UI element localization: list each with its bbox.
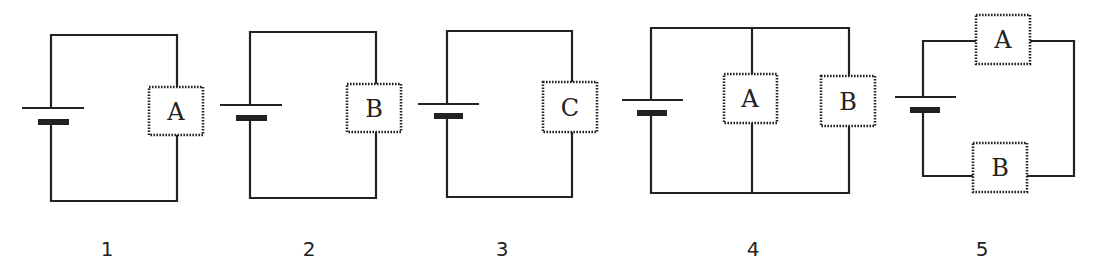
battery-icon bbox=[22, 108, 84, 122]
bulb-icon: B bbox=[973, 143, 1027, 192]
circuit-4: A B 4 bbox=[622, 28, 875, 261]
wire bbox=[923, 110, 973, 176]
bulb-icon: A bbox=[976, 15, 1030, 64]
circuit-number: 1 bbox=[101, 237, 114, 261]
bulb-label: B bbox=[365, 95, 383, 123]
circuit-5: A B 5 bbox=[895, 15, 1074, 261]
bulb-label: A bbox=[993, 26, 1012, 54]
bulb-label: B bbox=[839, 88, 857, 116]
bulb-label: B bbox=[991, 154, 1009, 182]
circuit-3: C 3 bbox=[418, 31, 597, 261]
battery-icon bbox=[220, 105, 282, 118]
circuit-diagram-canvas: A 1 B 2 C 3 bbox=[0, 0, 1093, 276]
bulb-icon: A bbox=[724, 74, 777, 123]
wire bbox=[923, 41, 976, 97]
battery-icon bbox=[895, 97, 956, 110]
bulb-icon: B bbox=[821, 76, 875, 126]
battery-icon bbox=[418, 104, 479, 116]
bulb-icon: B bbox=[347, 84, 401, 132]
circuit-number: 5 bbox=[976, 237, 989, 261]
wire bbox=[651, 113, 849, 193]
circuit-2: B 2 bbox=[220, 32, 401, 261]
circuit-number: 4 bbox=[747, 237, 760, 261]
circuit-number: 2 bbox=[303, 237, 316, 261]
bulb-label: A bbox=[166, 98, 185, 126]
bulb-icon: C bbox=[543, 82, 597, 132]
battery-icon bbox=[622, 100, 683, 113]
bulb-label: A bbox=[740, 85, 759, 113]
bulb-icon: A bbox=[149, 87, 203, 135]
circuit-1: A 1 bbox=[22, 35, 203, 261]
bulb-label: C bbox=[561, 94, 579, 122]
circuit-number: 3 bbox=[496, 237, 509, 261]
wire bbox=[1027, 41, 1074, 176]
